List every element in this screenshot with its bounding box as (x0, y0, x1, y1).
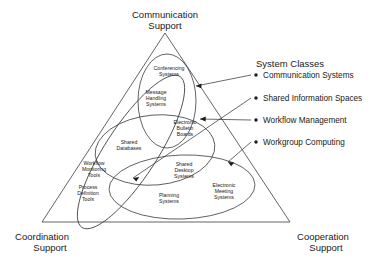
ellipse-shared-information-spaces[interactable] (92, 110, 218, 190)
label-shared-databases: Shared Databases (117, 139, 142, 151)
legend-label-communication-systems: Communication Systems (263, 71, 354, 80)
label-conferencing-systems: Conferencing Systems (154, 65, 185, 77)
corner-label-coordination: Coordination Support (15, 231, 69, 253)
legend-bullet-icon (254, 118, 257, 121)
planning-systems-line2: Systems (159, 198, 179, 204)
legend-item-communication-systems[interactable]: Communication Systems (254, 71, 353, 80)
shared-databases-line2: Databases (117, 145, 142, 151)
process-definition-line3: Tools (82, 196, 95, 202)
corner-cooperation-line1: Cooperation (297, 231, 349, 242)
label-process-definition-tools: Process Definition Tools (77, 184, 99, 202)
legend-bullet-icon (254, 96, 257, 99)
label-workflow-monitoring-tools: Workflow Monitoring Tools (82, 160, 106, 178)
conferencing-systems-line2: Systems (159, 71, 179, 77)
electronic-bulletin-line3: Boards (177, 131, 194, 137)
label-planning-systems: Planning Systems (159, 192, 179, 204)
electronic-meeting-line3: Systems (214, 194, 234, 200)
legend-label-shared-information-spaces: Shared Information Spaces (263, 94, 362, 103)
cscw-triangle-diagram: Communication Support Coordination Suppo… (0, 0, 377, 262)
legend-item-workflow-management[interactable]: Workflow Management (254, 116, 347, 125)
legend-label-workgroup-computing: Workgroup Computing (263, 138, 345, 147)
label-message-handling-systems: Message Handling Systems (145, 89, 166, 107)
corner-cooperation-line2: Support (309, 242, 343, 253)
diagram-canvas: Communication Support Coordination Suppo… (0, 0, 377, 262)
arrowhead-workgroup-computing (228, 162, 234, 166)
corner-label-communication: Communication Support (132, 9, 198, 31)
legend-bullet-icon (254, 140, 257, 143)
legend-label-workflow-management: Workflow Management (263, 116, 347, 125)
arrowhead-workflow-management (200, 117, 206, 122)
label-electronic-meeting-systems: Electronic Meeting Systems (213, 182, 236, 200)
corner-label-cooperation: Cooperation Support (297, 231, 349, 253)
corner-communication-line2: Support (148, 20, 182, 31)
shared-desktop-line3: Systems (174, 173, 194, 179)
leader-workflow-management (200, 119, 251, 120)
corner-coordination-line1: Coordination (15, 231, 69, 242)
message-handling-line3: Systems (146, 101, 166, 107)
leader-communication-systems (196, 75, 251, 86)
legend-item-workgroup-computing[interactable]: Workgroup Computing (254, 138, 345, 147)
workflow-monitoring-line3: Tools (88, 172, 101, 178)
corner-coordination-line2: Support (33, 242, 67, 253)
label-electronic-bulletin-boards: Electronic Bulletin Boards (174, 119, 197, 137)
corner-communication-line1: Communication (132, 9, 198, 20)
legend-bullet-icon (254, 73, 257, 76)
ellipse-workflow-management[interactable] (60, 62, 202, 241)
label-shared-desktop-systems: Shared Desktop Systems (174, 161, 194, 179)
legend-item-shared-information-spaces[interactable]: Shared Information Spaces (254, 94, 362, 103)
legend-title: System Classes (256, 58, 324, 69)
